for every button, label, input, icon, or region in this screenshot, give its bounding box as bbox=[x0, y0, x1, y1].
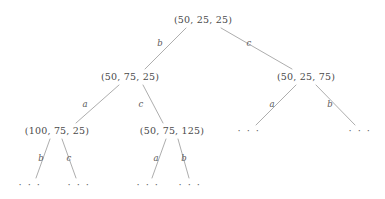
tree-edge-root-to-right bbox=[221, 28, 292, 69]
tree-leaf-lr-right: · · · bbox=[179, 180, 202, 190]
tree-edge-label-right-to-right-right: b bbox=[327, 100, 332, 109]
tree-edge-label-ll-to-ll-left: b bbox=[38, 154, 43, 163]
tree-edge-label-root-to-right: c bbox=[247, 39, 252, 48]
tree-edge-right-to-right-right bbox=[316, 85, 355, 125]
tree-leaf-lr-left: · · · bbox=[137, 180, 160, 190]
tree-node-left: (50, 75, 25) bbox=[101, 72, 159, 82]
tree-edge-label-left-to-left-left: a bbox=[82, 100, 87, 109]
tree-node-left-left: (100, 75, 25) bbox=[25, 126, 89, 136]
tree-edge-root-to-left bbox=[145, 28, 186, 69]
derivation-tree-figure: (50, 25, 25) (50, 75, 25) (50, 25, 75) (… bbox=[0, 0, 385, 199]
tree-node-left-right: (50, 75, 125) bbox=[140, 126, 204, 136]
tree-node-right: (50, 25, 75) bbox=[277, 72, 335, 82]
tree-edge-left-to-left-right bbox=[143, 85, 163, 123]
tree-edge-label-lr-to-lr-left: a bbox=[153, 154, 158, 163]
tree-edge-right-to-right-left bbox=[256, 85, 296, 125]
tree-edge-label-right-to-right-left: a bbox=[269, 100, 274, 109]
tree-node-root: (50, 25, 25) bbox=[174, 15, 232, 25]
tree-edge-label-lr-to-lr-right: b bbox=[181, 154, 186, 163]
tree-leaf-right-left: · · · bbox=[238, 126, 261, 136]
tree-edge-label-left-to-left-right: c bbox=[139, 100, 144, 109]
tree-leaf-right-right: · · · bbox=[349, 126, 372, 136]
tree-edge-label-root-to-left: b bbox=[157, 39, 162, 48]
tree-edge-label-ll-to-ll-right: c bbox=[67, 154, 72, 163]
tree-leaf-ll-right: · · · bbox=[68, 180, 91, 190]
tree-leaf-ll-left: · · · bbox=[19, 180, 42, 190]
